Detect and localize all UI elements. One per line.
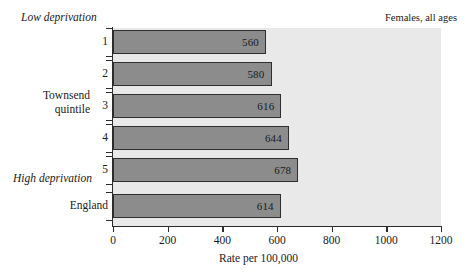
value-tick	[168, 226, 169, 232]
value-tick	[113, 226, 114, 232]
series-note-label: Females, all ages	[385, 11, 457, 24]
category-label-3: 3	[94, 99, 108, 111]
category-tick	[106, 92, 112, 93]
bar-value-label: 560	[242, 36, 265, 48]
category-axis-title: Townsend quintile	[14, 89, 90, 116]
category-tick	[106, 88, 112, 89]
category-tick	[106, 56, 112, 57]
value-tick	[222, 226, 223, 232]
category-tick	[106, 120, 112, 121]
category-axis-title-line1: Townsend	[14, 89, 90, 103]
bar-value-label: 644	[265, 132, 288, 144]
category-tick	[106, 60, 112, 61]
value-axis-title: Rate per 100,000	[0, 252, 469, 264]
bar-value-label: 580	[247, 68, 270, 80]
bar-4: 644	[113, 126, 289, 150]
low-deprivation-annotation: Low deprivation	[21, 11, 97, 24]
bar-2: 580	[113, 62, 272, 86]
value-tick	[277, 226, 278, 232]
bar-value-label: 616	[257, 100, 280, 112]
value-tick-label: 0	[110, 234, 116, 246]
category-label-2: 2	[94, 67, 108, 79]
category-label-5: 5	[94, 163, 108, 175]
value-tick-label: 800	[323, 234, 340, 246]
category-tick	[106, 156, 112, 157]
value-tick-label: 200	[159, 234, 176, 246]
category-label-4: 4	[94, 131, 108, 143]
bar-5: 678	[113, 158, 298, 182]
value-tick-label: 1200	[430, 234, 453, 246]
value-tick-label: 1000	[375, 234, 398, 246]
category-axis-title-line2: quintile	[14, 103, 90, 117]
bar-value-label: 614	[257, 200, 280, 212]
category-tick	[106, 220, 112, 221]
bar-value-label: 678	[274, 164, 297, 176]
category-tick	[106, 192, 112, 193]
category-tick	[106, 152, 112, 153]
high-deprivation-annotation: High deprivation	[13, 172, 92, 185]
category-label-1: 1	[94, 35, 108, 47]
bar-1: 560	[113, 30, 266, 54]
value-tick	[441, 226, 442, 232]
value-tick-label: 400	[214, 234, 231, 246]
category-tick	[106, 184, 112, 185]
bar-3: 616	[113, 94, 281, 118]
category-tick	[106, 124, 112, 125]
category-tick	[106, 28, 112, 29]
chart-container: Low deprivation High deprivation Females…	[0, 0, 469, 273]
category-label-england: England	[18, 199, 108, 211]
value-tick	[332, 226, 333, 232]
bar-england: 614	[113, 194, 281, 218]
value-tick-label: 600	[268, 234, 285, 246]
value-tick	[386, 226, 387, 232]
